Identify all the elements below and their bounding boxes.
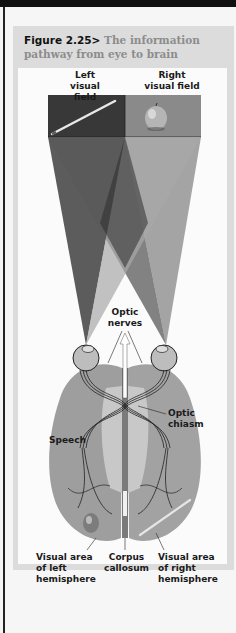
figure-number: Figure 2.25>: [24, 34, 100, 46]
right-eye: [151, 345, 177, 371]
top-border: [0, 0, 236, 7]
speech-label: Speech: [49, 435, 94, 446]
diagram-panel: Leftvisual field Rightvisual field Optic…: [18, 68, 227, 564]
left-eye: [73, 345, 99, 371]
visual-area-left-label: Visual areaof lefthemisphere: [36, 552, 106, 585]
visual-area-right-label: Visual areaof righthemisphere: [158, 552, 228, 585]
figure-box: Figure 2.25> The information pathway fro…: [13, 26, 234, 570]
apple-in-left-visual-area: [83, 513, 99, 533]
figure-title-line1: The information: [104, 34, 200, 46]
left-field-label: Leftvisual field: [65, 70, 105, 103]
corpus-callosum-label: Corpuscallosum: [104, 552, 149, 574]
right-field-label: Rightvisual field: [142, 70, 202, 92]
optic-nerves-label: Opticnerves: [104, 307, 146, 329]
optic-chiasm-label: Opticchiasm: [168, 408, 218, 430]
figure-title: Figure 2.25> The information pathway fro…: [24, 33, 229, 61]
figure-title-line2: pathway from eye to brain: [24, 48, 178, 60]
